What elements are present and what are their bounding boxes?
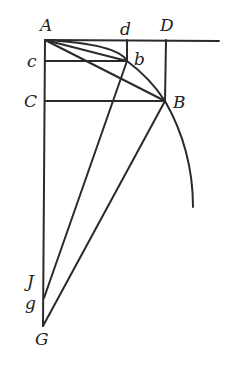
segment-D-B	[165, 40, 166, 101]
segment-B-G	[43, 101, 165, 326]
top-horizontal-line	[45, 40, 219, 41]
segment-b-g	[44, 61, 127, 298]
point-label-D: D	[159, 15, 174, 35]
point-label-c: c	[27, 51, 37, 71]
circular-arc	[45, 40, 193, 207]
point-labels: AdDcbCBJgG	[24, 15, 186, 349]
point-label-A: A	[38, 15, 52, 35]
point-label-g: g	[25, 293, 36, 313]
geometric-diagram: AdDcbCBJgG	[0, 0, 232, 376]
point-label-G: G	[35, 329, 49, 349]
point-label-d: d	[120, 19, 131, 39]
left-vertical-line	[43, 40, 45, 326]
point-label-B: B	[172, 92, 186, 112]
point-label-J: J	[24, 271, 35, 291]
point-label-C: C	[24, 91, 37, 111]
point-label-b: b	[134, 49, 145, 69]
chord-A-B	[45, 40, 165, 101]
